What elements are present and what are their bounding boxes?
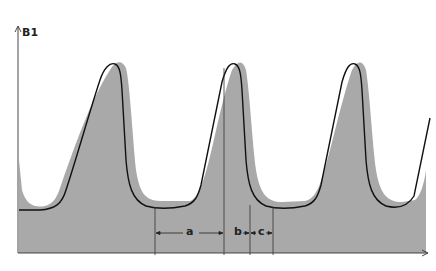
y-axis-label: B1 (22, 26, 38, 39)
gray-filled-waveform (19, 62, 426, 253)
dimension-label-b: b (233, 226, 243, 238)
dimension-label-a: a (185, 226, 194, 238)
dimension-label-c: c (257, 226, 266, 238)
waveform-diagram (0, 0, 436, 271)
